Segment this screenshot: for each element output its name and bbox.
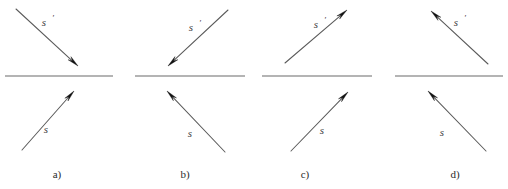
ray-label-s-prime: s [454,16,458,28]
ray-label-s-incident: s [320,124,324,136]
ray-label-s-incident: s [440,126,444,138]
ray-s-prime-panel-d: s′ [431,11,488,64]
prime-mark-icon: ′ [324,15,327,25]
ray-s-prime-panel-b: s′ [168,10,228,66]
ray-shaft [436,16,488,64]
panels-group: s′sa)s′sb)s′sc)s′sd) [5,9,503,181]
ray-diagram-figure: s′sa)s′sb)s′sc)s′sd) [0,0,508,189]
ray-s-prime-panel-c: s′ [285,10,347,63]
ray-diagram-canvas: s′sa)s′sb)s′sc)s′sd) [0,0,508,189]
prime-mark-icon: ′ [52,13,55,23]
ray-shaft [433,96,486,151]
prime-mark-icon: ′ [199,18,202,28]
ray-label-s-incident: s [188,127,192,139]
panel-d: s′sd) [395,11,503,181]
ray-label-s-prime: s [314,18,318,30]
panel-a: s′sa) [5,9,113,181]
panel-label-panel-a: a) [53,168,62,181]
ray-s-incident-panel-a: s [22,91,74,150]
panel-c: s′sc) [262,10,372,181]
ray-shaft [291,97,343,151]
ray-s-incident-panel-b: s [167,91,225,152]
panel-label-panel-d: d) [450,168,460,181]
ray-label-s-prime: s [189,21,193,33]
panel-label-panel-c: c) [301,168,310,181]
panel-label-panel-b: b) [180,168,190,181]
ray-s-prime-panel-a: s′ [16,9,78,66]
ray-label-s-prime: s [42,16,46,28]
panel-b: s′sb) [135,10,245,181]
ray-s-incident-panel-c: s [291,92,348,151]
ray-label-s-incident: s [44,123,48,135]
ray-s-incident-panel-d: s [428,91,486,151]
ray-shaft [172,96,225,152]
prime-mark-icon: ′ [464,13,467,23]
